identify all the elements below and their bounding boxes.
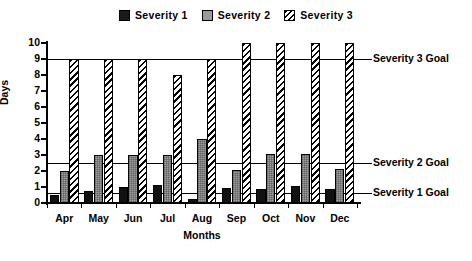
chart-legend: Severity 1 Severity 2 Severity 3 bbox=[0, 6, 472, 24]
x-axis-tick bbox=[150, 203, 151, 208]
bar-severity-1 bbox=[222, 188, 231, 203]
legend-label-severity-3: Severity 3 bbox=[300, 9, 353, 21]
y-axis-tick-label: 8 bbox=[0, 68, 40, 80]
x-axis-tick bbox=[357, 203, 358, 208]
y-axis-tick-label: 10 bbox=[0, 36, 40, 48]
bar-group bbox=[288, 43, 322, 203]
bar-group bbox=[116, 43, 150, 203]
x-axis-tick bbox=[254, 203, 255, 208]
bar-severity-1 bbox=[256, 189, 265, 203]
y-axis-tick-label: 9 bbox=[0, 52, 40, 64]
x-axis-tick bbox=[288, 203, 289, 208]
bar-severity-2 bbox=[197, 139, 206, 203]
y-axis-tick-label: 4 bbox=[0, 132, 40, 144]
legend-item-severity-1: Severity 1 bbox=[119, 9, 188, 21]
y-axis-tick-label: 5 bbox=[0, 116, 40, 128]
x-axis-tick bbox=[219, 203, 220, 208]
reference-line-connector bbox=[362, 193, 372, 194]
bar-severity-3 bbox=[138, 59, 147, 203]
x-axis-title: Months bbox=[2, 229, 402, 241]
y-axis-tick-label: 1 bbox=[0, 180, 40, 192]
bar-group bbox=[185, 43, 219, 203]
bar-severity-2 bbox=[128, 155, 137, 203]
x-axis-tick bbox=[47, 203, 48, 208]
bar-severity-3 bbox=[311, 43, 320, 203]
reference-line-label: Severity 3 Goal bbox=[373, 52, 449, 64]
reference-line-label: Severity 1 Goal bbox=[373, 186, 449, 198]
bar-group bbox=[47, 43, 81, 203]
hatched-swatch-icon bbox=[284, 10, 295, 21]
solid-black-swatch-icon bbox=[119, 10, 130, 21]
bar-severity-1 bbox=[119, 187, 128, 203]
y-axis-tick-label: 2 bbox=[0, 164, 40, 176]
bar-severity-1 bbox=[291, 186, 300, 203]
bar-severity-1 bbox=[50, 195, 59, 203]
bar-group bbox=[254, 43, 288, 203]
bar-severity-1 bbox=[188, 199, 197, 203]
x-axis-tick bbox=[323, 203, 324, 208]
bar-severity-3 bbox=[242, 43, 251, 203]
bar-group bbox=[323, 43, 357, 203]
reference-line-connector bbox=[362, 163, 372, 164]
y-axis-tick-label: 6 bbox=[0, 100, 40, 112]
bar-group bbox=[219, 43, 253, 203]
bar-severity-3 bbox=[276, 43, 285, 203]
y-axis-tick-label: 3 bbox=[0, 148, 40, 160]
bar-severity-1 bbox=[84, 191, 93, 203]
bar-group bbox=[150, 43, 184, 203]
bar-severity-2 bbox=[60, 171, 69, 203]
bar-severity-3 bbox=[207, 59, 216, 203]
x-axis-tick bbox=[185, 203, 186, 208]
legend-item-severity-3: Severity 3 bbox=[284, 9, 353, 21]
bar-severity-3 bbox=[69, 59, 78, 203]
bar-severity-1 bbox=[325, 189, 334, 203]
x-axis-category-label: Dec bbox=[317, 212, 363, 224]
bar-severity-3 bbox=[104, 59, 113, 203]
reference-line-connector bbox=[362, 59, 372, 60]
bar-severity-2 bbox=[94, 155, 103, 203]
x-axis-tick bbox=[81, 203, 82, 208]
bar-chart: Severity 1 Severity 2 Severity 3 Days Mo… bbox=[0, 0, 472, 261]
bar-severity-3 bbox=[345, 43, 354, 203]
reference-line-label: Severity 2 Goal bbox=[373, 156, 449, 168]
x-axis-tick bbox=[116, 203, 117, 208]
bar-severity-2 bbox=[232, 170, 241, 203]
gray-swatch-icon bbox=[202, 10, 213, 21]
bar-severity-2 bbox=[335, 169, 344, 203]
bar-severity-1 bbox=[153, 185, 162, 203]
legend-item-severity-2: Severity 2 bbox=[202, 9, 271, 21]
y-axis-tick-label: 7 bbox=[0, 84, 40, 96]
legend-label-severity-2: Severity 2 bbox=[218, 9, 271, 21]
plot-area bbox=[47, 43, 357, 203]
bar-group bbox=[81, 43, 115, 203]
y-axis-tick-label: 0 bbox=[0, 196, 40, 208]
legend-label-severity-1: Severity 1 bbox=[135, 9, 188, 21]
bar-severity-3 bbox=[173, 75, 182, 203]
bar-severity-2 bbox=[163, 155, 172, 203]
bar-severity-2 bbox=[301, 154, 310, 203]
bar-severity-2 bbox=[266, 154, 275, 203]
